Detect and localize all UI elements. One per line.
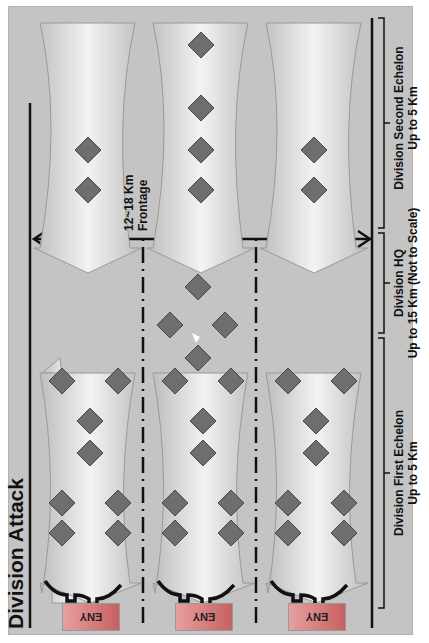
section-second-echelon: Division Second Echelon Up to 5 Km (392, 33, 420, 203)
enemy-marker-1: ENY (62, 603, 120, 631)
hq-units (157, 274, 238, 371)
frontage-line2: Frontage (136, 175, 150, 231)
enemy-marker-3: ENY (288, 603, 346, 631)
frontage-label: 12~18 Km Frontage (122, 175, 150, 231)
diagram-frame: Division Attack ENY ENY ENY 12~18 Km Fro… (0, 0, 429, 643)
section-brackets (378, 18, 390, 608)
section-division-hq: Division HQ Up to 15 Km (Not to Scale) (392, 203, 420, 363)
rotated-canvas: Division Attack ENY ENY ENY 12~18 Km Fro… (0, 0, 429, 643)
diagram-graphics (0, 0, 429, 643)
diagram-title: Division Attack (4, 478, 28, 629)
first-echelon-arrows (40, 358, 368, 603)
enemy-marker-2: ENY (175, 603, 233, 631)
section-first-echelon: Division First Echelon Up to 5 Km (392, 393, 420, 553)
frontage-line1: 12~18 Km (122, 175, 136, 231)
hq-flag-icon (192, 333, 200, 343)
